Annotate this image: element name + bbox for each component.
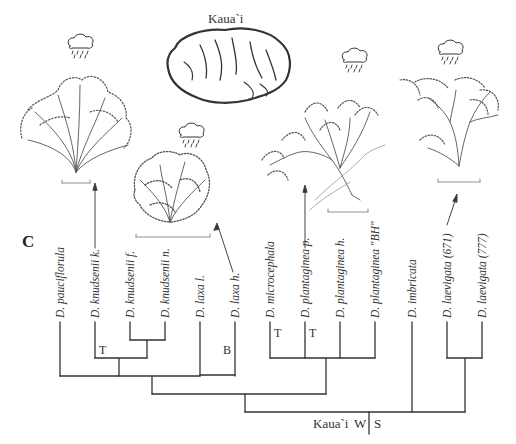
arrow-to-knudsenii bbox=[93, 183, 97, 248]
arrow-to-laxa bbox=[214, 223, 233, 272]
taxon-label: D. laevigata (777) bbox=[476, 233, 488, 318]
taxon-label: D. plantaginea p. bbox=[299, 238, 311, 319]
phylogeny-figure: Kaua`i C D. pauciflorula D. knudsenii k.… bbox=[0, 0, 516, 444]
taxon-label: D. laxa l. bbox=[194, 275, 206, 318]
branch-mark-t: T bbox=[99, 343, 106, 358]
root-left-label: W bbox=[354, 416, 366, 432]
taxon-label: D. pauciflorula bbox=[54, 247, 66, 318]
taxon-label: D. laxa h. bbox=[229, 273, 241, 318]
branch-mark-b: B bbox=[223, 343, 231, 358]
shrub-illustration-knudsenii bbox=[21, 76, 131, 183]
panel-letter: C bbox=[22, 232, 34, 252]
rain-cloud-icon bbox=[68, 34, 93, 58]
taxon-label: D. plantaginea "BH" bbox=[369, 221, 381, 318]
shrub-illustration-laxa bbox=[134, 152, 210, 237]
root-island-label: Kaua`i bbox=[313, 416, 348, 432]
rain-cloud-icon bbox=[342, 48, 367, 72]
taxon-label: D. microcephala bbox=[264, 241, 276, 318]
kauai-island-map bbox=[167, 29, 289, 103]
taxon-label: D. knudsenii n. bbox=[159, 248, 171, 318]
branch-mark-t: T bbox=[274, 326, 281, 341]
phylogeny-diagram bbox=[0, 0, 516, 444]
taxon-label: D. knudsenii k. bbox=[89, 249, 101, 318]
arrow-to-laevigata bbox=[447, 194, 457, 225]
rain-cloud-icon bbox=[179, 123, 204, 147]
shrub-illustration-plantaginea bbox=[262, 101, 385, 213]
phylogenetic-tree bbox=[60, 322, 482, 434]
taxon-label: D. laevigata (671) bbox=[441, 233, 453, 318]
rain-cloud-icon bbox=[438, 40, 463, 64]
taxon-label: D. imbricata bbox=[406, 259, 418, 318]
root-right-label: S bbox=[374, 416, 381, 432]
shrub-illustration-laevigata bbox=[400, 78, 498, 182]
taxon-label: D. plantaginea h. bbox=[334, 238, 346, 319]
island-title: Kaua`i bbox=[208, 11, 243, 27]
taxon-label: D. knudsenii f. bbox=[124, 251, 136, 318]
branch-mark-t: T bbox=[309, 326, 316, 341]
